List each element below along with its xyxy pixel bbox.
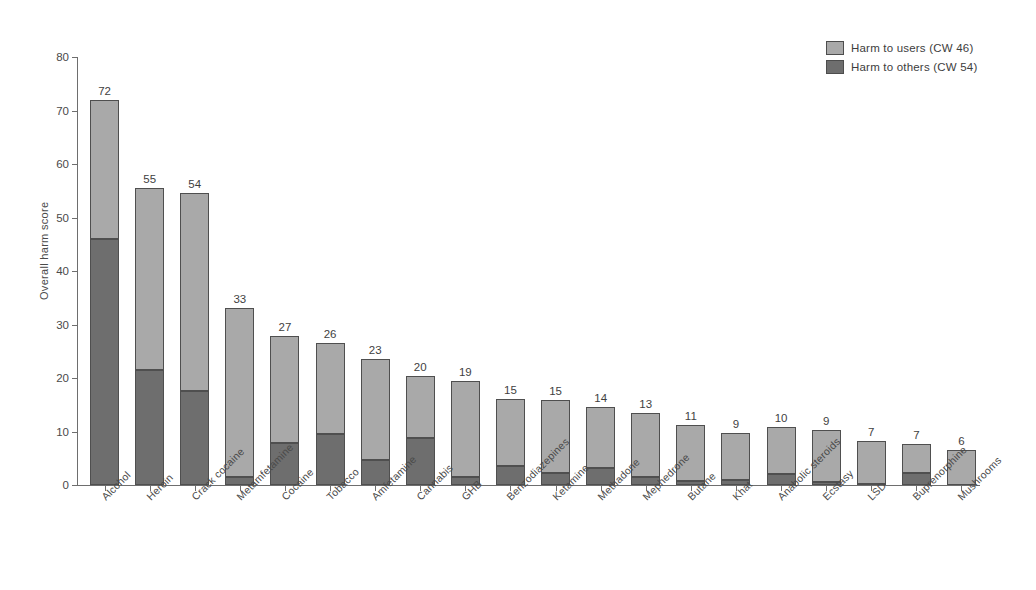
segment-harm-to-users	[316, 343, 345, 434]
bar-crack-cocaine[interactable]: 54	[180, 193, 209, 485]
bar-value-label: 15	[504, 384, 517, 396]
bar-value-label: 72	[98, 85, 111, 97]
segment-harm-to-users	[451, 381, 480, 477]
y-tick-mark	[72, 485, 78, 486]
y-tick-mark	[72, 164, 78, 165]
segment-harm-to-users	[902, 444, 931, 473]
bar-mephedrone[interactable]: 13	[631, 413, 660, 485]
bar-value-label: 54	[188, 178, 201, 190]
bar-value-label: 10	[775, 412, 788, 424]
y-tick-mark	[72, 218, 78, 219]
bar-lsd[interactable]: 7	[857, 441, 886, 485]
segment-harm-to-users	[180, 193, 209, 391]
y-tick-mark	[72, 111, 78, 112]
bar-value-label: 9	[733, 418, 739, 430]
segment-harm-to-users	[857, 441, 886, 484]
bar-value-label: 14	[594, 392, 607, 404]
bar-value-label: 9	[823, 415, 829, 427]
segment-harm-to-others	[90, 239, 119, 485]
segment-harm-to-users	[361, 359, 390, 461]
bar-methadone[interactable]: 14	[586, 407, 615, 485]
bar-khat[interactable]: 9	[721, 433, 750, 485]
segment-harm-to-users	[406, 376, 435, 438]
bar-amfetamine[interactable]: 23	[361, 359, 390, 485]
harm-score-chart: Harm to users (CW 46) Harm to others (CW…	[0, 0, 1036, 590]
bar-value-label: 26	[324, 328, 337, 340]
segment-harm-to-users	[721, 433, 750, 480]
bar-heroin[interactable]: 55	[135, 188, 164, 485]
legend-item-harm-to-users: Harm to users (CW 46)	[826, 40, 977, 56]
y-axis-title: Overall harm score	[38, 202, 50, 300]
bar-value-label: 15	[549, 385, 562, 397]
segment-harm-to-users	[90, 100, 119, 239]
bar-value-label: 27	[279, 321, 292, 333]
bar-tobacco[interactable]: 26	[316, 343, 345, 485]
bar-value-label: 7	[913, 429, 919, 441]
bar-value-label: 20	[414, 361, 427, 373]
legend-label-harm-to-users: Harm to users (CW 46)	[851, 42, 973, 54]
y-tick-mark	[72, 57, 78, 58]
segment-harm-to-users	[767, 427, 796, 474]
y-tick-mark	[72, 271, 78, 272]
bar-benzodiazepines[interactable]: 15	[496, 399, 525, 485]
segment-harm-to-others	[135, 370, 164, 485]
y-tick-mark	[72, 432, 78, 433]
segment-harm-to-others	[180, 391, 209, 485]
segment-harm-to-users	[270, 336, 299, 443]
bar-value-label: 11	[685, 410, 697, 422]
y-tick-mark	[72, 378, 78, 379]
legend-swatch-harm-to-users	[826, 41, 844, 55]
bar-value-label: 23	[369, 344, 382, 356]
segment-harm-to-users	[135, 188, 164, 370]
segment-harm-to-users	[586, 407, 615, 469]
bar-value-label: 55	[143, 173, 156, 185]
segment-harm-to-users	[496, 399, 525, 466]
plot-area: 01020304050607080 7255543327262320191515…	[78, 57, 980, 485]
bar-alcohol[interactable]: 72	[90, 100, 119, 485]
y-tick-mark	[72, 325, 78, 326]
bar-value-label: 33	[233, 293, 246, 305]
bar-value-label: 7	[868, 426, 874, 438]
bar-value-label: 19	[459, 366, 472, 378]
bar-value-label: 13	[639, 398, 652, 410]
